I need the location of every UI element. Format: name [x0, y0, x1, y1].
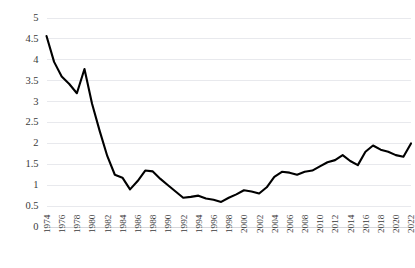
x-axis-tick-label: 1986 [133, 214, 143, 233]
y-axis-tick-label: 4 [33, 54, 39, 65]
y-axis-tick-label: 2 [33, 137, 38, 148]
x-axis-tick-label: 1982 [103, 214, 113, 233]
x-axis-tick-label: 2000 [239, 214, 249, 233]
x-axis-tick-label: 2012 [330, 214, 340, 233]
y-axis-tick-label: 1 [33, 179, 38, 190]
x-axis-tick-label: 1980 [87, 214, 97, 233]
x-axis-tick-label: 2002 [255, 214, 265, 233]
y-axis-tick-label: 4.5 [25, 33, 38, 44]
x-axis-tick-label: 1984 [118, 214, 128, 233]
x-axis-tick-label: 2004 [270, 214, 280, 233]
x-axis-tick-label: 2010 [315, 214, 325, 233]
chart-canvas: 00.511.522.533.544.55 197419761978198019… [0, 0, 415, 268]
y-axis-tick-label: 0.5 [25, 200, 38, 211]
y-axis-tick-label: 1.5 [25, 158, 38, 169]
data-series-group [47, 36, 412, 202]
x-axis-tick-label: 1978 [72, 214, 82, 233]
y-axis-labels-group: 00.511.522.533.544.55 [25, 12, 39, 232]
x-axis-tick-label: 1974 [42, 214, 52, 233]
x-axis-tick-label: 2016 [361, 214, 371, 233]
x-axis-tick-label: 2018 [376, 214, 386, 233]
line-chart-figure: 00.511.522.533.544.55 197419761978198019… [0, 0, 415, 268]
x-axis-tick-label: 1996 [209, 214, 219, 233]
y-axis-tick-label: 3.5 [25, 75, 38, 86]
x-axis-tick-label: 1998 [224, 214, 234, 233]
x-axis-tick-label: 1994 [194, 214, 204, 233]
series-1-line [47, 36, 412, 202]
x-axis-labels-group: 1974197619781980198219841986198819901992… [42, 214, 415, 233]
x-axis-tick-label: 2014 [346, 214, 356, 233]
y-axis-tick-label: 0 [33, 221, 38, 232]
x-axis-tick-label: 2022 [406, 214, 415, 233]
x-axis-tick-label: 1992 [179, 214, 189, 233]
x-axis-tick-label: 2008 [300, 214, 310, 233]
x-axis-tick-label: 2020 [391, 214, 401, 233]
x-axis-tick-label: 1988 [148, 214, 158, 233]
y-axis-tick-label: 3 [33, 96, 38, 107]
y-axis-tick-label: 5 [33, 12, 38, 23]
gridlines-group [47, 18, 412, 227]
y-axis-tick-label: 2.5 [25, 116, 38, 127]
x-axis-tick-label: 2006 [285, 214, 295, 233]
x-axis-tick-label: 1976 [57, 214, 67, 233]
x-axis-tick-label: 1990 [163, 214, 173, 233]
